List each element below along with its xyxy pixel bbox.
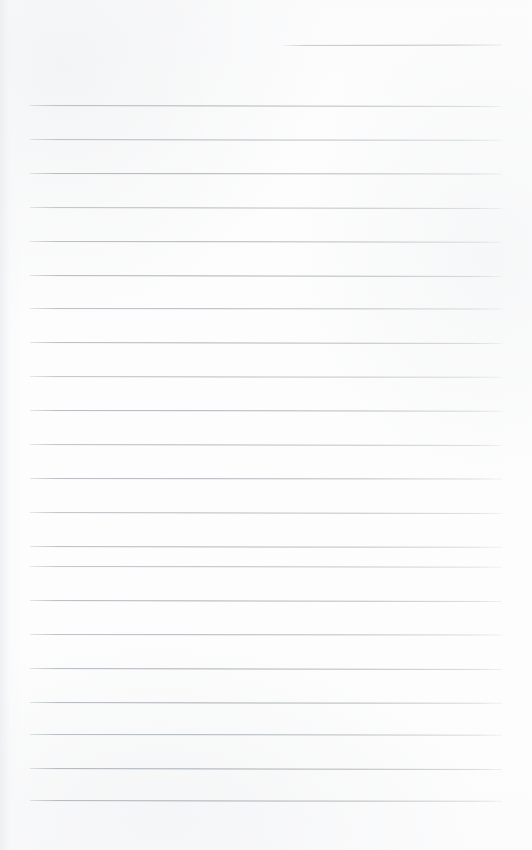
rule-line <box>30 768 502 770</box>
rule-line <box>30 105 502 107</box>
rule-line <box>30 275 502 277</box>
rule-line <box>30 342 502 344</box>
rule-line <box>30 241 502 243</box>
lined-paper-page <box>0 0 532 850</box>
rule-line <box>30 634 502 636</box>
rule-line <box>30 308 502 310</box>
partial-rule-line <box>283 45 502 46</box>
rule-line <box>30 478 502 480</box>
rule-line <box>30 512 502 514</box>
rule-line <box>30 410 502 412</box>
rule-line <box>30 566 502 568</box>
left-scan-edge-band <box>0 0 22 850</box>
rule-line <box>30 444 502 446</box>
rule-line <box>30 207 502 209</box>
rule-line <box>30 702 502 704</box>
rule-line <box>30 600 502 602</box>
paper-texture <box>0 0 532 850</box>
rule-line <box>30 668 502 670</box>
rule-line <box>30 139 502 141</box>
rule-line <box>30 173 502 175</box>
rule-line <box>30 546 502 548</box>
rule-line <box>30 800 502 802</box>
rule-line <box>30 376 502 378</box>
rule-line <box>30 734 502 736</box>
